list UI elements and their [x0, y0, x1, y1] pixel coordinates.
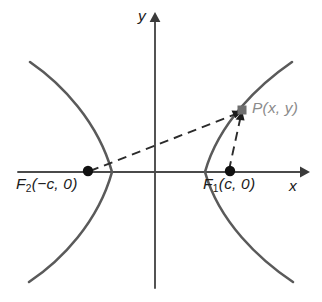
y-axis	[150, 12, 161, 288]
diagram-canvas	[0, 0, 322, 302]
label-point-p: P(x, y)	[252, 100, 298, 116]
label-focus-right: F1(c, 0)	[203, 176, 255, 194]
y-axis-arrowhead	[150, 12, 161, 22]
label-focus-left-coords: (−c, 0)	[32, 175, 78, 192]
label-focus-right-base: F	[203, 175, 213, 192]
segment-f2-to-p	[90, 110, 243, 171]
label-x-axis: x	[289, 178, 297, 194]
hyperbola-diagram: F2(−c, 0) F1(c, 0) x y P(x, y)	[0, 0, 322, 302]
label-focus-left: F2(−c, 0)	[16, 176, 78, 194]
label-focus-left-base: F	[16, 175, 26, 192]
focus-point-f2	[83, 166, 93, 176]
x-axis-arrowhead	[300, 167, 310, 178]
segment-f1-to-p-line	[229, 117, 241, 170]
label-focus-right-coords: (c, 0)	[219, 175, 256, 192]
point-marker-p	[238, 106, 247, 115]
label-y-axis: y	[138, 8, 146, 24]
